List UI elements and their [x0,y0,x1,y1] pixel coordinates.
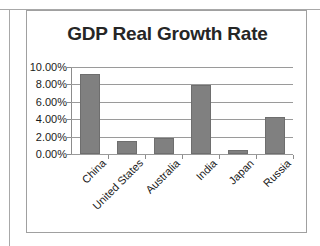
y-axis-tick-label: 6.00% [7,96,67,108]
x-axis-category-labels: ChinaUnited StatesAustraliaIndiaJapanRus… [71,157,293,217]
bar[interactable] [80,74,100,154]
bar-slot [108,67,145,154]
bar-slot [71,67,108,154]
bar[interactable] [154,138,174,154]
y-axis-tick-label: 4.00% [7,113,67,125]
x-axis-category-label: China [79,157,108,186]
chart-title: GDP Real Growth Rate [27,23,308,45]
chart-container[interactable]: GDP Real Growth Rate 0.00%2.00%4.00%6.00… [26,10,307,233]
bar-series [71,67,293,154]
y-axis-tick-label: 0.00% [7,148,67,160]
y-axis-tick-label: 10.00% [7,61,67,73]
bar-slot [145,67,182,154]
bar-slot [219,67,256,154]
y-axis-tick-label: 2.00% [7,131,67,143]
bar-slot [182,67,219,154]
plot-area: 0.00%2.00%4.00%6.00%8.00%10.00% [71,67,293,154]
bar-slot [256,67,293,154]
x-axis-tickmark [293,155,294,159]
bar[interactable] [117,141,137,154]
page-border-left [9,9,10,246]
y-axis-tick-label: 8.00% [7,78,67,90]
y-axis-tickmark [67,154,71,155]
bar[interactable] [228,150,248,154]
screenshot-page: GDP Real Growth Rate 0.00%2.00%4.00%6.00… [0,0,320,246]
bar[interactable] [265,117,285,154]
bar[interactable] [191,85,211,154]
